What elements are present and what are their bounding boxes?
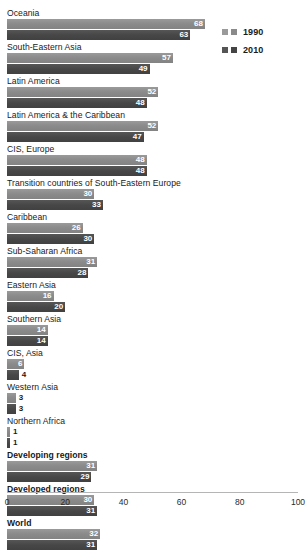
bar-value-label: 63 [179, 31, 190, 39]
bar-group-label: Oceania [0, 8, 308, 19]
bar-value-label: 57 [162, 54, 173, 62]
bar-group: World3231 [0, 518, 308, 550]
bar-row: 1 [0, 438, 308, 448]
bar-group-label: Northern Africa [0, 416, 308, 427]
x-axis-tick-label: 0 [5, 497, 10, 507]
bar-value-label: 48 [136, 156, 147, 164]
bar-row: 47 [0, 132, 308, 142]
bar-value-label: 48 [136, 99, 147, 107]
bar-row: 6 [0, 359, 308, 369]
bar-group: South-Eastern Asia5749 [0, 42, 308, 74]
bar-value-label: 3 [16, 394, 23, 402]
bar-row: 68 [0, 19, 308, 29]
bar-row: 31 [0, 540, 308, 550]
bar-2010: 29 [7, 472, 91, 482]
bar-1990: 31 [7, 461, 97, 471]
bar-2010: 14 [7, 336, 48, 346]
bar-value-label: 1 [10, 439, 17, 447]
bar-value-label: 52 [147, 122, 158, 130]
bar-row: 3 [0, 393, 308, 403]
bar-value-label: 52 [147, 88, 158, 96]
bar-row: 48 [0, 155, 308, 165]
bar-value-label: 20 [54, 303, 65, 311]
bar-row: 49 [0, 64, 308, 74]
bar-row: 16 [0, 291, 308, 301]
bar-group-label: Developing regions [0, 450, 308, 461]
x-axis: 020406080100 [0, 492, 308, 518]
bar-2010: 49 [7, 64, 150, 74]
bar-row: 1 [0, 427, 308, 437]
bar-value-label: 30 [83, 235, 94, 243]
bar-group-label: South-Eastern Asia [0, 42, 308, 53]
bar-group-label: World [0, 518, 308, 529]
x-axis-tick-label: 20 [60, 497, 69, 507]
bar-1990: 16 [7, 291, 54, 301]
bar-2010: 20 [7, 302, 65, 312]
bar-1990: 57 [7, 53, 173, 63]
bar-2010: 48 [7, 98, 147, 108]
x-axis-line [7, 492, 298, 493]
bar-2010: 4 [7, 370, 19, 380]
bar-value-label: 48 [136, 167, 147, 175]
bar-row: 48 [0, 98, 308, 108]
bar-group-label: Western Asia [0, 382, 308, 393]
bar-1990: 32 [7, 529, 100, 539]
bar-1990: 30 [7, 189, 94, 199]
bar-value-label: 16 [43, 292, 54, 300]
bar-row: 26 [0, 223, 308, 233]
bar-2010: 33 [7, 200, 103, 210]
bar-group: CIS, Europe4848 [0, 144, 308, 176]
bar-group-label: Southern Asia [0, 314, 308, 325]
bar-value-label: 26 [72, 224, 83, 232]
bar-group-label: Latin America & the Caribbean [0, 110, 308, 121]
bar-row: 20 [0, 302, 308, 312]
bar-group-label: Transition countries of South-Eastern Eu… [0, 178, 308, 189]
bar-value-label: 32 [89, 530, 100, 538]
bar-1990: 6 [7, 359, 24, 369]
bar-group: Latin America & the Caribbean5247 [0, 110, 308, 142]
bar-value-label: 1 [10, 428, 17, 436]
bar-value-label: 31 [86, 462, 97, 470]
bar-group-label: CIS, Europe [0, 144, 308, 155]
bar-group: Western Asia33 [0, 382, 308, 414]
bar-row: 28 [0, 268, 308, 278]
bar-1990: 1 [7, 427, 10, 437]
bar-row: 33 [0, 200, 308, 210]
bar-2010: 47 [7, 132, 144, 142]
bar-row: 30 [0, 189, 308, 199]
bar-value-label: 3 [16, 405, 23, 413]
bar-group-label: Eastern Asia [0, 280, 308, 291]
bar-group: Developing regions3129 [0, 450, 308, 482]
bar-value-label: 33 [92, 201, 103, 209]
bar-row: 31 [0, 257, 308, 267]
bar-row: 29 [0, 472, 308, 482]
bar-row: 52 [0, 121, 308, 131]
bar-group-label: Latin America [0, 76, 308, 87]
bar-2010: 48 [7, 166, 147, 176]
bar-group-label: Sub-Saharan Africa [0, 246, 308, 257]
bar-row: 32 [0, 529, 308, 539]
bar-row: 14 [0, 325, 308, 335]
bar-1990: 52 [7, 121, 158, 131]
bar-value-label: 14 [37, 337, 48, 345]
plot-area: Oceania6863South-Eastern Asia5749Latin A… [0, 8, 308, 552]
bar-value-label: 68 [194, 20, 205, 28]
bar-group: Sub-Saharan Africa3128 [0, 246, 308, 278]
bar-1990: 68 [7, 19, 205, 29]
bar-row: 30 [0, 234, 308, 244]
bar-row: 63 [0, 30, 308, 40]
bar-value-label: 14 [37, 326, 48, 334]
bar-row: 4 [0, 370, 308, 380]
bar-1990: 31 [7, 257, 97, 267]
bar-value-label: 4 [19, 371, 26, 379]
bar-value-label: 6 [18, 360, 24, 368]
bar-group: Southern Asia1414 [0, 314, 308, 346]
x-axis-tick-label: 100 [291, 497, 305, 507]
x-axis-tick-label: 80 [235, 497, 244, 507]
bar-value-label: 49 [139, 65, 150, 73]
bar-group: Northern Africa11 [0, 416, 308, 448]
bar-group: Oceania6863 [0, 8, 308, 40]
x-axis-tick-label: 60 [177, 497, 186, 507]
bar-2010: 63 [7, 30, 190, 40]
